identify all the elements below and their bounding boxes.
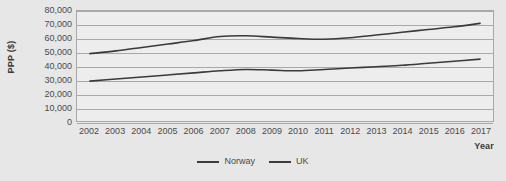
series-lines <box>77 11 493 121</box>
chart-legend: NorwayUK <box>0 157 506 166</box>
y-axis-tick-label: 20,000 <box>22 90 72 99</box>
x-axis-title: Year <box>474 141 494 151</box>
plot-area <box>76 10 494 122</box>
series-line-uk <box>90 59 480 81</box>
legend-entry-norway[interactable]: Norway <box>197 157 255 166</box>
y-axis-tick-label: 10,000 <box>22 104 72 113</box>
y-axis-tick-label: 40,000 <box>22 62 72 71</box>
y-axis-tick-label: 60,000 <box>22 34 72 43</box>
y-axis-tick-label: 50,000 <box>22 48 72 57</box>
y-axis-title: PPP ($) <box>6 27 16 87</box>
legend-line-swatch-icon <box>197 161 219 163</box>
series-line-norway <box>90 23 480 53</box>
y-axis-tick-label: 80,000 <box>22 6 72 15</box>
y-axis-tick-label: 70,000 <box>22 20 72 29</box>
legend-label: Norway <box>224 157 255 166</box>
legend-entry-uk[interactable]: UK <box>269 157 309 166</box>
gridline <box>77 123 493 124</box>
line-chart: PPP ($) 010,00020,00030,00040,00050,0006… <box>0 0 506 181</box>
legend-label: UK <box>296 157 309 166</box>
y-axis-tick-labels: 010,00020,00030,00040,00050,00060,00070,… <box>22 10 72 122</box>
x-axis-tick-labels: 2002200320042005200620072008200920102011… <box>76 125 494 139</box>
y-axis-tick-label: 30,000 <box>22 76 72 85</box>
legend-line-swatch-icon <box>269 161 291 163</box>
x-axis-tick-label: 2017 <box>464 125 498 137</box>
y-axis-tick-label: 0 <box>22 118 72 127</box>
